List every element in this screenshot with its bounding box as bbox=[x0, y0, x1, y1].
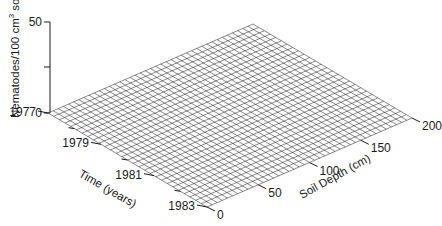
mesh-line bbox=[202, 46, 361, 140]
mesh-line bbox=[233, 33, 392, 127]
mesh-line bbox=[115, 84, 274, 178]
depth-tick-mark bbox=[258, 185, 266, 189]
mesh-line bbox=[125, 80, 284, 174]
depth-tick-label: 200 bbox=[422, 119, 442, 133]
mesh-line bbox=[186, 53, 345, 147]
z-tick-50: 50 bbox=[29, 15, 43, 29]
z-axis-title: Nematodes/100 cm3 soil bbox=[7, 0, 21, 118]
mesh-line bbox=[192, 51, 351, 145]
mesh-line bbox=[53, 111, 212, 205]
mesh-line bbox=[130, 77, 289, 171]
mesh-line bbox=[135, 75, 294, 169]
time-tick-label: 1977 bbox=[9, 105, 36, 119]
z-tick-0: 0 bbox=[35, 106, 42, 120]
mesh-line bbox=[84, 97, 243, 191]
mesh-line bbox=[212, 42, 371, 136]
mesh-line bbox=[207, 44, 366, 138]
mesh-line bbox=[238, 31, 397, 125]
mesh-line bbox=[89, 95, 248, 189]
depth-tick-label: 150 bbox=[371, 141, 391, 155]
depth-axis-title: Soil Depth (cm) bbox=[297, 152, 372, 201]
mesh-line bbox=[227, 35, 386, 129]
mesh-line bbox=[140, 73, 299, 167]
z-axis: 50 0 Nematodes/100 cm3 soil bbox=[7, 0, 50, 120]
mesh-line bbox=[63, 106, 222, 200]
mesh-line bbox=[176, 57, 335, 151]
mesh-line bbox=[145, 71, 304, 165]
surface-chart: 50 0 Nematodes/100 cm3 soil 197719791981… bbox=[0, 0, 442, 226]
mesh-line bbox=[253, 24, 412, 118]
depth-tick-mark bbox=[412, 118, 420, 122]
time-tick-label: 1981 bbox=[115, 168, 142, 182]
depth-tick-label: 0 bbox=[217, 208, 224, 222]
mesh-line bbox=[248, 26, 407, 120]
mesh-line bbox=[217, 40, 376, 134]
depth-tick-mark bbox=[361, 140, 369, 144]
mesh-line bbox=[171, 60, 330, 154]
mesh-line bbox=[151, 69, 310, 163]
mesh-line bbox=[156, 66, 315, 160]
time-tick-label: 1983 bbox=[168, 199, 195, 213]
mesh-line bbox=[166, 62, 325, 156]
depth-tick-mark bbox=[310, 163, 318, 167]
mesh-line bbox=[222, 37, 381, 131]
mesh-line bbox=[243, 28, 402, 122]
mesh-line bbox=[161, 64, 320, 158]
time-tick-label: 1979 bbox=[62, 136, 89, 150]
depth-tick-mark bbox=[207, 207, 215, 211]
mesh-line bbox=[181, 55, 340, 149]
depth-tick-label: 50 bbox=[268, 186, 282, 200]
mesh-line bbox=[58, 109, 217, 203]
mesh-line bbox=[197, 48, 356, 142]
mesh-line bbox=[120, 82, 279, 176]
mesh-line bbox=[110, 86, 269, 180]
